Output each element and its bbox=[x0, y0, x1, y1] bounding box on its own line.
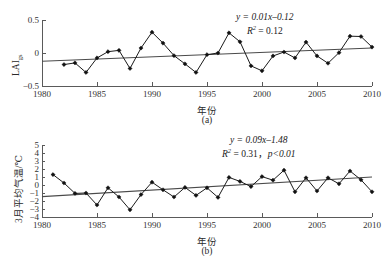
data-point-marker bbox=[238, 179, 242, 183]
x-tick-label: 2005 bbox=[297, 90, 337, 99]
y-tick-label: 3 bbox=[35, 157, 40, 166]
y-axis-title-b: 3月平均气温/℃ bbox=[11, 155, 25, 223]
r-squared-b-value: = 0.31， bbox=[231, 149, 268, 159]
annotation-a: y = 0.01x–0.12 R2 = 0.12 bbox=[236, 12, 294, 38]
x-tick-label: 1985 bbox=[77, 90, 117, 99]
data-point-marker bbox=[106, 50, 110, 54]
data-series-line bbox=[53, 170, 372, 210]
y-tick-label: 0.5 bbox=[28, 16, 39, 25]
y-tick-label: 0 bbox=[35, 181, 40, 190]
x-tick-label: 1990 bbox=[132, 90, 172, 99]
data-point-marker bbox=[249, 64, 253, 68]
x-tick-label: 1985 bbox=[77, 221, 117, 230]
equation-b: y = 0.09x–1.48 bbox=[222, 135, 296, 147]
x-tick-label: 2000 bbox=[242, 221, 282, 230]
y-axis-title-a-base: LAI bbox=[11, 60, 21, 76]
data-point-marker bbox=[62, 62, 66, 66]
x-tick-label: 1980 bbox=[22, 221, 62, 230]
x-tick-label: 2005 bbox=[297, 221, 337, 230]
chart-panel-b: 3月平均气温/℃ y = 0.09x–1.48 R2 = 0.31，p<0.01… bbox=[0, 127, 392, 255]
y-tick-label: 1 bbox=[35, 173, 40, 182]
x-tick-label: 1980 bbox=[22, 90, 62, 99]
x-tick-label: 2010 bbox=[352, 90, 392, 99]
r-squared-b: R2 = 0.31，p<0.01 bbox=[222, 147, 296, 161]
y-axis-title-a-subscript: gs bbox=[16, 54, 23, 60]
x-tick-label: 2010 bbox=[352, 221, 392, 230]
y-tick-label: 2 bbox=[35, 165, 40, 174]
panel-caption-b: (b) bbox=[177, 246, 237, 256]
y-tick-label: 4 bbox=[35, 149, 40, 158]
data-point-marker bbox=[227, 175, 231, 179]
annotation-b: y = 0.09x–1.48 R2 = 0.31，p<0.01 bbox=[222, 135, 296, 161]
y-tick-label: −3 bbox=[29, 205, 39, 214]
x-tick-label: 1995 bbox=[187, 90, 227, 99]
p-value-b: p<0.01 bbox=[268, 149, 296, 159]
x-tick-label: 1995 bbox=[187, 221, 227, 230]
y-tick-label: 5 bbox=[35, 141, 40, 150]
equation-a: y = 0.01x–0.12 bbox=[236, 12, 294, 24]
panel-caption-a: (a) bbox=[177, 115, 237, 125]
data-point-marker bbox=[282, 50, 286, 54]
y-tick-label: −2 bbox=[29, 197, 39, 206]
y-tick-label: −1 bbox=[29, 189, 39, 198]
r-squared-a: R2 = 0.12 bbox=[236, 24, 294, 38]
x-tick-label: 1990 bbox=[132, 221, 172, 230]
chart-panel-a: LAIgs y = 0.01x–0.12 R2 = 0.12 年份 (a) −0… bbox=[0, 0, 392, 128]
x-tick-label: 2000 bbox=[242, 90, 282, 99]
y-tick-label: 0 bbox=[35, 49, 40, 58]
y-axis-title-a: LAIgs bbox=[11, 54, 23, 76]
r-squared-a-value: = 0.12 bbox=[256, 26, 283, 36]
